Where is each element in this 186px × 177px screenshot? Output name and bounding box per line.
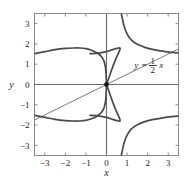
y-tick-label: 1	[25, 59, 30, 69]
y-tick-label: 3	[25, 19, 30, 29]
y-tick-label: −2	[20, 120, 30, 130]
x-tick-label: 3	[166, 158, 171, 168]
x-tick-label: −2	[61, 158, 71, 168]
y-tick-label: 2	[25, 39, 30, 49]
x-tick-label: 2	[145, 158, 150, 168]
y-tick-label: −1	[20, 100, 30, 110]
equation-y-symbol: y	[133, 60, 138, 70]
y-tick-label: −3	[20, 141, 30, 151]
x-tick-label: −3	[40, 158, 50, 168]
x-tick-label: 1	[125, 158, 130, 168]
x-tick-label: −1	[81, 158, 91, 168]
y-axis-label: y	[8, 79, 14, 90]
equation-x-symbol: x	[158, 60, 163, 70]
chart-figure: −3−2−10123 −3−2−10123 x y y = 1 2 x	[0, 0, 186, 176]
equation-equals-sign: =	[142, 60, 147, 70]
plot-canvas: −3−2−10123 −3−2−10123 x y y = 1 2 x	[0, 0, 186, 176]
y-tick-label: 0	[25, 80, 30, 90]
equation-fraction-denominator: 2	[151, 65, 156, 75]
x-axis-label: x	[103, 167, 109, 177]
node-point	[104, 82, 109, 87]
y-tick-label-group: −3−2−10123	[20, 19, 30, 151]
data-marker-group	[104, 82, 109, 87]
